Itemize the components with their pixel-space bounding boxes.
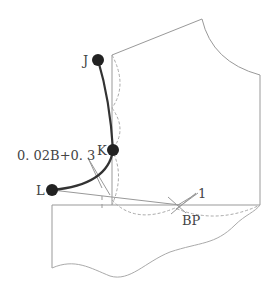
- break-line: [52, 205, 260, 277]
- l-to-bp-line: [52, 190, 180, 205]
- label-l: L: [36, 183, 45, 198]
- shoulder-line: [112, 19, 202, 55]
- label-j: J: [81, 53, 88, 68]
- formula-leader: [88, 158, 110, 195]
- neckline-curve: [202, 19, 260, 75]
- label-formula: 0. 02B+0. 3: [17, 148, 95, 163]
- pattern-diagram: J K L 0. 02B+0. 3 1 BP: [0, 0, 279, 296]
- point-k: [107, 144, 119, 156]
- point-j: [92, 54, 104, 66]
- dashed-arc-middle: [112, 108, 120, 205]
- point-l: [46, 184, 58, 196]
- label-bp: BP: [182, 213, 201, 228]
- dashed-arc-upper: [112, 55, 120, 108]
- label-k: K: [97, 143, 107, 158]
- bp-cross: [168, 193, 198, 214]
- label-one: 1: [198, 186, 206, 201]
- armhole-curve: [52, 60, 113, 190]
